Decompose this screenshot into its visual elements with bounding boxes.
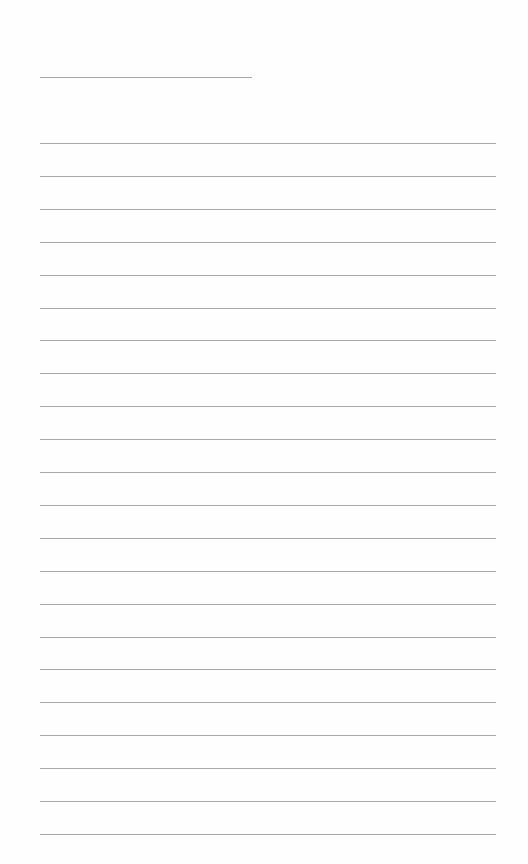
ruled-line bbox=[40, 439, 496, 440]
ruled-line bbox=[40, 702, 496, 703]
ruled-line bbox=[40, 176, 496, 177]
ruled-line bbox=[40, 340, 496, 341]
ruled-line bbox=[40, 242, 496, 243]
ruled-line bbox=[40, 308, 496, 309]
ruled-line bbox=[40, 373, 496, 374]
header-line bbox=[40, 77, 252, 78]
ruled-line bbox=[40, 538, 496, 539]
ruled-line bbox=[40, 406, 496, 407]
ruled-line bbox=[40, 571, 496, 572]
ruled-line bbox=[40, 143, 496, 144]
ruled-line bbox=[40, 768, 496, 769]
ruled-line bbox=[40, 834, 496, 835]
ruled-line bbox=[40, 604, 496, 605]
ruled-line bbox=[40, 209, 496, 210]
lined-page bbox=[0, 0, 528, 864]
ruled-line bbox=[40, 801, 496, 802]
ruled-line bbox=[40, 472, 496, 473]
ruled-line bbox=[40, 735, 496, 736]
ruled-line bbox=[40, 275, 496, 276]
ruled-line bbox=[40, 669, 496, 670]
ruled-line bbox=[40, 637, 496, 638]
ruled-line bbox=[40, 505, 496, 506]
